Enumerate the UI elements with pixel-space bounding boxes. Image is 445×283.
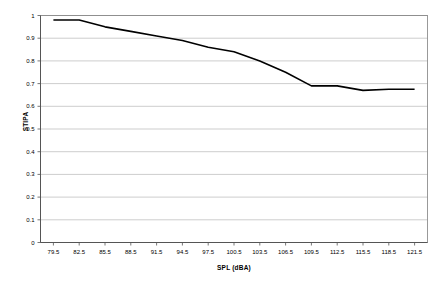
y-tick-label: 0 bbox=[13, 240, 35, 246]
y-tick-label: 1 bbox=[13, 13, 35, 19]
x-tick-label: 121.5 bbox=[400, 249, 430, 255]
x-axis-title: SPL (dBA) bbox=[40, 264, 428, 271]
plot-area bbox=[0, 0, 445, 283]
chart-container: 00.10.20.30.40.50.60.70.80.91 79.582.585… bbox=[0, 0, 445, 283]
y-tick-label: 0.4 bbox=[13, 149, 35, 155]
y-tick-label: 0.2 bbox=[13, 194, 35, 200]
y-axis-title: STIPA bbox=[22, 102, 29, 142]
gridlines bbox=[41, 16, 428, 243]
data-series bbox=[53, 20, 414, 90]
y-tick-label: 0.9 bbox=[13, 35, 35, 41]
y-tick-label: 0.3 bbox=[13, 171, 35, 177]
y-tick-label: 0.7 bbox=[13, 81, 35, 87]
y-tick-label: 0.1 bbox=[13, 217, 35, 223]
y-tick-label: 0.8 bbox=[13, 58, 35, 64]
series-line-0 bbox=[53, 20, 414, 90]
